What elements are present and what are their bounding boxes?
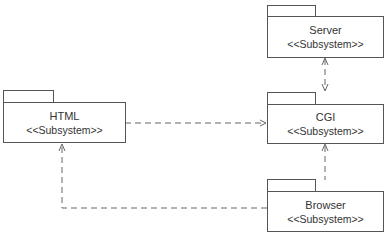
- package-stereotype: <<Subsystem>>: [287, 124, 363, 138]
- package-stereotype: <<Subsystem>>: [287, 212, 363, 226]
- package-stereotype: <<Subsystem>>: [26, 123, 102, 137]
- package-body: Server <<Subsystem>>: [267, 16, 384, 58]
- package-body: Browser <<Subsystem>>: [267, 191, 384, 232]
- arrowhead-icon: [322, 84, 328, 91]
- package-stereotype: <<Subsystem>>: [287, 37, 363, 51]
- dependency-browser-to-html: [62, 145, 267, 208]
- package-name: Browser: [305, 198, 345, 212]
- package-body: CGI <<Subsystem>>: [267, 104, 384, 144]
- package-name: Server: [309, 23, 341, 37]
- package-name: HTML: [50, 109, 80, 123]
- package-body: HTML <<Subsystem>>: [3, 102, 126, 143]
- package-name: CGI: [316, 110, 336, 124]
